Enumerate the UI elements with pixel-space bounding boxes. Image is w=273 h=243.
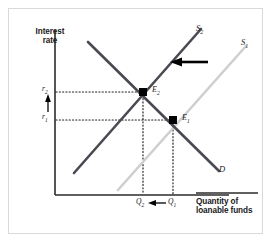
x-axis-title-line2: loanable funds [196, 206, 252, 215]
y-axis-title: Interest rate [24, 27, 76, 45]
y-axis-title-line1: Interest [36, 27, 65, 36]
supply-curve-s2 [74, 29, 201, 173]
y-tick-label-r2: r2 [42, 85, 48, 95]
loanable-funds-figure: Interest rate Quantity of loanable funds… [0, 0, 273, 243]
equilibrium-label-e1: E1 [182, 114, 190, 124]
rate-increase-arrow [45, 94, 51, 112]
x-tick-label-q1: Q1 [168, 198, 176, 208]
axis-lines [55, 30, 229, 195]
x-axis-title-line1: Quantity of [196, 197, 238, 206]
y-tick-label-r1: r1 [42, 113, 48, 123]
supply-curve-s1-label: S1 [241, 38, 248, 49]
equilibrium-label-e2: E2 [152, 86, 160, 96]
equilibrium-marker-e2 [139, 88, 147, 96]
x-axis-title: Quantity of loanable funds [196, 197, 268, 215]
quantity-decrease-arrow [148, 200, 166, 206]
equilibrium-marker-e1 [169, 116, 177, 124]
y-axis-title-line2: rate [43, 36, 58, 45]
x-tick-label-q2: Q2 [136, 198, 144, 208]
demand-curve-label: D [219, 165, 225, 175]
supply-curve-s2-label: S2 [196, 24, 203, 35]
